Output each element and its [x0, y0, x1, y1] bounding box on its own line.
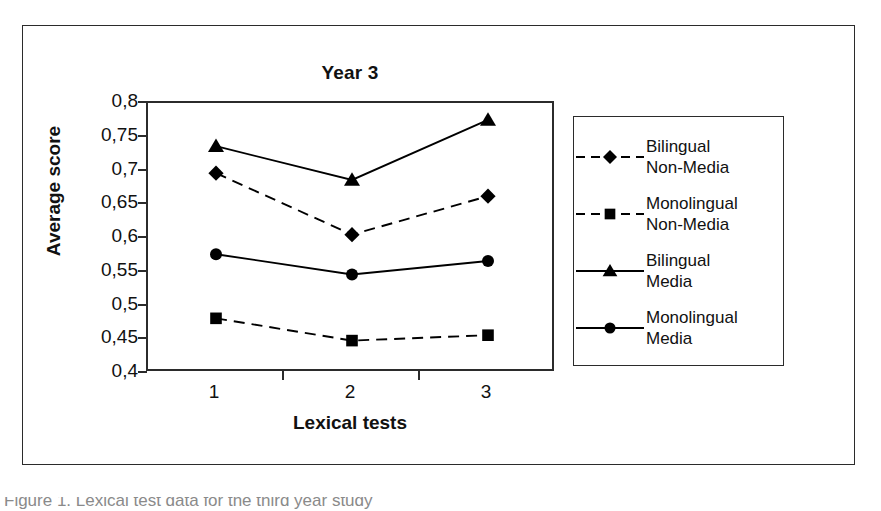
y-axis-tick-label: 0,75: [66, 124, 138, 146]
legend-label: Monolingual Media: [646, 307, 738, 349]
figure-caption-text: Figure 1. Lexical test data for the thir…: [4, 497, 373, 511]
square-marker: [605, 209, 616, 220]
diamond-marker: [208, 166, 223, 181]
square-marker: [346, 335, 358, 347]
y-axis-tick-label: 0,5: [66, 293, 138, 315]
y-axis-tick-label: 0,4: [66, 360, 138, 382]
series-monolingual-media: [210, 248, 494, 280]
diamond-marker: [480, 189, 495, 204]
y-axis-title: Average score: [43, 96, 65, 286]
plot-series-svg: [148, 103, 556, 373]
legend-entry[interactable]: Bilingual Non-Media: [574, 129, 782, 185]
legend-entry[interactable]: Monolingual Non-Media: [574, 186, 782, 242]
y-axis-tick-label: 0,7: [66, 158, 138, 180]
legend-marker-sample: [574, 256, 646, 286]
triangle-marker: [480, 112, 496, 125]
x-axis-tick-mark: [282, 371, 284, 380]
legend: Bilingual Non-MediaMonolingual Non-Media…: [573, 116, 784, 366]
legend-label: Bilingual Media: [646, 250, 710, 292]
square-marker: [482, 329, 494, 341]
legend-marker-sample: [574, 199, 646, 229]
series-bilingual-media: [208, 112, 496, 185]
circle-marker: [482, 255, 494, 267]
chart-title: Year 3: [146, 62, 554, 84]
legend-label: Monolingual Non-Media: [646, 193, 738, 235]
figure-caption-clipped: Figure 1. Lexical test data for the thir…: [0, 497, 881, 511]
x-axis-tick-mark: [418, 371, 420, 380]
series-monolingual-non-media: [210, 313, 494, 347]
y-axis-tick-label: 0,65: [66, 191, 138, 213]
y-axis-tick-label: 0,8: [66, 90, 138, 112]
circle-marker: [346, 268, 358, 280]
y-axis-tick-label: 0,45: [66, 326, 138, 348]
legend-marker-sample: [574, 313, 646, 343]
x-axis-tick-marks: [146, 371, 554, 381]
x-axis-tick-labels: 123: [146, 381, 554, 409]
x-axis-title: Lexical tests: [146, 412, 554, 434]
diamond-marker: [603, 150, 617, 164]
legend-label: Bilingual Non-Media: [646, 136, 729, 178]
x-axis-tick-label: 2: [320, 381, 380, 403]
x-axis-tick-label: 3: [456, 381, 516, 403]
legend-entry[interactable]: Monolingual Media: [574, 300, 782, 356]
series-line: [216, 120, 488, 180]
y-axis-tick-labels: 0,80,750,70,650,60,550,50,450,4: [66, 101, 138, 371]
triangle-marker: [208, 139, 224, 152]
square-marker: [210, 313, 222, 325]
legend-entry[interactable]: Bilingual Media: [574, 243, 782, 299]
legend-marker-sample: [574, 142, 646, 172]
x-axis-tick-label: 1: [184, 381, 244, 403]
diamond-marker: [344, 227, 359, 242]
y-axis-tick-label: 0,6: [66, 225, 138, 247]
y-axis-tick-label: 0,55: [66, 259, 138, 281]
plot-area: [146, 101, 554, 371]
circle-marker: [604, 322, 615, 333]
circle-marker: [210, 248, 222, 260]
